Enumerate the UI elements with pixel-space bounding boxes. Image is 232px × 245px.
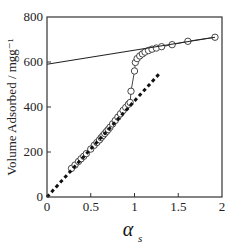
x-axis-label-main: α: [123, 218, 134, 240]
data-point-circle: [131, 68, 137, 74]
data-point-circle: [128, 88, 134, 94]
y-tick-label: 400: [24, 99, 44, 114]
x-tick-label: 1: [131, 199, 138, 214]
y-tick-label: 600: [24, 54, 44, 69]
plot-area: [47, 34, 218, 197]
y-axis-label: Volume Adsorbed / mgg⁻¹: [4, 38, 19, 175]
y-axis-label-group: Volume Adsorbed / mgg⁻¹: [4, 38, 19, 175]
linear-fit-line: [47, 37, 215, 64]
x-tick-label: 0: [44, 199, 51, 214]
x-axis-label-subscript: s: [138, 232, 142, 244]
y-tick-label: 0: [37, 189, 44, 204]
y-tick-label: 200: [24, 144, 44, 159]
y-tick-label: 800: [24, 9, 44, 24]
x-tick-label: 0.5: [83, 199, 99, 214]
x-tick-label: 2: [219, 199, 226, 214]
x-tick-label: 1.5: [170, 199, 186, 214]
x-axis-label: α s: [123, 218, 143, 244]
alpha-s-plot: Volume Adsorbed / mgg⁻¹ 00.511.520200400…: [0, 0, 232, 245]
